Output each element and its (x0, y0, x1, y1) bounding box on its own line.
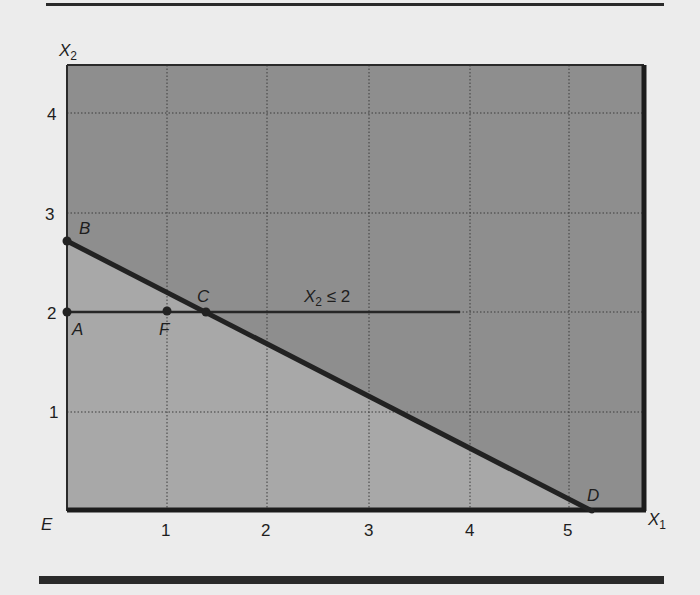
label-d: D (587, 486, 599, 505)
point-f (163, 307, 172, 316)
y-tick-4: 4 (47, 105, 56, 124)
y-axis-label: X2 (58, 41, 77, 63)
point-c (202, 308, 211, 317)
point-d (590, 509, 595, 514)
origin-label-e: E (41, 515, 53, 534)
y-tick-3: 3 (45, 205, 54, 224)
x-tick-3: 3 (364, 521, 373, 540)
x-tick-5: 5 (563, 521, 572, 540)
label-f: F (159, 320, 171, 339)
lp-graph: B A F C D E X2 ≤ 2 X2 X1 4 3 2 1 1 2 3 4… (0, 0, 700, 595)
point-b (63, 237, 72, 246)
point-a (63, 308, 72, 317)
label-b: B (79, 219, 90, 238)
x-tick-4: 4 (465, 521, 474, 540)
x-tick-2: 2 (261, 521, 270, 540)
x-tick-1: 1 (161, 521, 170, 540)
x-axis-label: X1 (647, 510, 666, 532)
constraint-label: X2 ≤ 2 (303, 287, 350, 309)
y-tick-2: 2 (47, 304, 56, 323)
label-a: A (71, 320, 83, 339)
y-tick-1: 1 (49, 403, 58, 422)
label-c: C (197, 287, 210, 306)
